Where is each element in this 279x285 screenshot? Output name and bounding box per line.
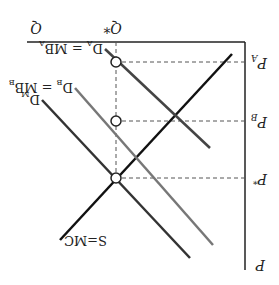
q-star-label: Q* [104,20,122,36]
quantity-axis-label: Q [30,20,42,36]
demand-market-label: DM [21,90,40,107]
point-a [111,57,121,67]
price-axis-label: P [255,257,266,273]
p-b-label: PB [251,112,268,130]
p-star-label: P* [253,171,268,187]
point-star [111,173,121,183]
demand-b-curve [75,88,213,245]
public-good-diagram: P PA PB P* Q* Q S=MC DA = MBA DB = MBB D… [0,0,279,285]
p-a-label: PA [251,53,268,71]
point-b [111,116,121,126]
supply-label: S=MC [64,233,107,248]
demand-a-label: DA = MBA [39,39,103,56]
